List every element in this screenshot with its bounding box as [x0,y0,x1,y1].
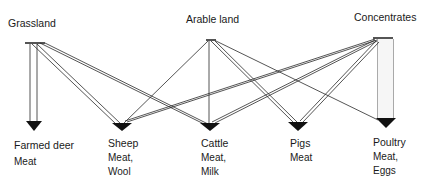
animal-label-pigs: Pigs [290,137,310,150]
arrowhead-poultry [376,118,396,128]
arrowhead-deer [26,121,42,131]
animal-label-cattle: Cattle [201,137,228,150]
flow-grassland-sheep [32,44,121,124]
products-pigs: Meat [290,151,312,165]
products-sheep: Meat, Wool [108,151,133,179]
flow-grassland-deer [30,44,37,121]
flow-arable-sheep [124,41,208,123]
arrowhead-cattle [200,123,220,131]
source-label-concentrates: Concentrates [354,11,416,24]
products-deer: Meat [14,155,36,169]
flow-concentrates-cattle [212,40,377,123]
flow-concentrates-pigs [300,41,379,122]
flow-concentrates-poultry [378,39,393,118]
arrowhead-pigs [288,122,308,131]
animal-label-deer: Farmed deer [14,139,74,152]
source-label-arable: Arable land [186,13,239,26]
animal-label-sheep: Sheep [108,137,138,150]
flow-grassland-cattle [40,43,208,124]
arrowhead-sheep [112,123,132,131]
products-cattle: Meat, Milk [201,151,226,179]
flow-arable-pigs [211,41,297,122]
animal-label-poultry: Poultry [373,136,406,149]
source-label-grassland: Grassland [8,17,56,30]
products-poultry: Meat, Eggs [373,150,398,178]
